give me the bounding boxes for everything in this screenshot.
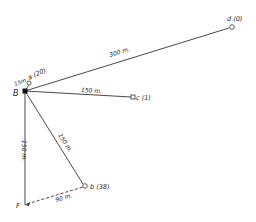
line-B-c <box>25 91 131 97</box>
label-B: B <box>13 89 19 98</box>
point-c-marker <box>131 95 135 99</box>
distance-B-b: 150 m. <box>57 132 74 154</box>
point-b-marker <box>83 184 88 189</box>
label-a: a (20) <box>26 66 47 81</box>
distance-B-F: 150 m. <box>21 140 28 161</box>
line-B-b <box>25 91 83 184</box>
distance-B-a: 15m <box>13 77 27 87</box>
line-B-d <box>25 28 229 91</box>
point-B-marker <box>23 89 28 94</box>
label-F: F <box>16 202 21 210</box>
distance-B-d: 300 m. <box>108 45 130 58</box>
survey-diagram: B a (20) d (0) c (1) b (38) F 15m 300 m.… <box>0 0 256 222</box>
distance-F-b: 90 m. <box>54 191 73 203</box>
point-d-marker <box>230 25 235 30</box>
label-b: b (38) <box>90 183 110 191</box>
point-F-arrow <box>25 202 30 206</box>
distance-B-c: 150 m. <box>81 86 103 94</box>
label-d: d (0) <box>227 15 242 23</box>
label-c: c (1) <box>136 94 151 102</box>
